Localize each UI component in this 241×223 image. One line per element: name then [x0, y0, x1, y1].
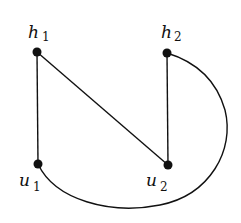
label-u1-sub: 1: [33, 180, 41, 194]
edge-h1-u1: [37, 52, 38, 164]
edge-u1-h2-curve: [38, 53, 227, 208]
label-h2: h: [161, 22, 172, 42]
label-u2-sub: 2: [160, 180, 168, 194]
label-u1: u: [19, 170, 30, 190]
graph-diagram: h 1 h 2 u 1 u 2: [0, 0, 241, 223]
edge-h2-u2: [167, 53, 168, 165]
label-h1: h: [28, 22, 39, 42]
node-h1: [33, 48, 42, 57]
edge-h1-u2: [37, 52, 168, 165]
label-h2-sub: 2: [174, 30, 182, 44]
label-u2: u: [146, 170, 157, 190]
node-u2: [164, 161, 173, 170]
node-h2: [163, 49, 172, 58]
label-h1-sub: 1: [42, 30, 50, 44]
node-u1: [34, 160, 43, 169]
